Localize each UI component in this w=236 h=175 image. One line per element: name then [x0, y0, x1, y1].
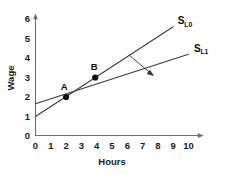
y-tick-label: 3: [25, 72, 30, 83]
data-point-b: [92, 74, 98, 80]
y-tick-label: 4: [25, 52, 31, 63]
curve-label-sl1: S L1: [194, 43, 209, 56]
supply-curve-sl0: [36, 27, 174, 117]
data-points-group: A B: [61, 61, 99, 101]
curve-label-sl0-sub: L0: [184, 21, 192, 28]
data-point-b-label: B: [91, 61, 98, 72]
x-axis-title: Hours: [98, 156, 125, 167]
x-tick-label: 0: [33, 140, 38, 151]
wage-hours-labor-supply-chart: 0 1 2 3 4 5 6 0 1 2 3 4 5 6 7 8 9 10 Hou…: [0, 0, 236, 175]
y-tick-label: 1: [25, 111, 31, 122]
y-tick-label: 2: [25, 91, 30, 102]
supply-curves-group: [36, 27, 189, 117]
data-point-a-label: A: [61, 81, 68, 92]
supply-curve-sl1: [36, 54, 189, 104]
x-tick-label: 9: [171, 140, 176, 151]
y-axis-arrowhead: [33, 14, 38, 20]
x-tick-label: 2: [63, 140, 68, 151]
x-tick-label: 3: [79, 140, 84, 151]
curve-label-sl0: S L0: [178, 15, 193, 28]
x-tick-label: 1: [48, 140, 54, 151]
y-tick-labels: 0 1 2 3 4 5 6: [25, 13, 31, 141]
x-tick-label: 6: [125, 140, 130, 151]
shift-arrow-annotation: [129, 55, 154, 76]
curve-label-sl1-sub: L1: [200, 48, 208, 55]
x-tick-labels: 0 1 2 3 4 5 6 7 8 9 10: [33, 140, 194, 151]
x-tick-label: 4: [94, 140, 100, 151]
data-point-a: [63, 94, 69, 100]
shift-arrow-shaft: [129, 55, 151, 73]
y-axis-title: Wage: [5, 66, 16, 91]
x-axis-arrowhead: [198, 133, 204, 138]
y-tick-label: 0: [25, 130, 30, 141]
y-tick-label: 6: [25, 13, 30, 24]
chart-canvas: 0 1 2 3 4 5 6 0 1 2 3 4 5 6 7 8 9 10 Hou…: [0, 0, 236, 175]
axes-group: [33, 14, 203, 138]
x-tick-label: 7: [140, 140, 145, 151]
x-tick-label: 5: [109, 140, 115, 151]
x-tick-label: 10: [183, 140, 194, 151]
x-tick-label: 8: [155, 140, 160, 151]
y-tick-label: 5: [25, 33, 31, 44]
